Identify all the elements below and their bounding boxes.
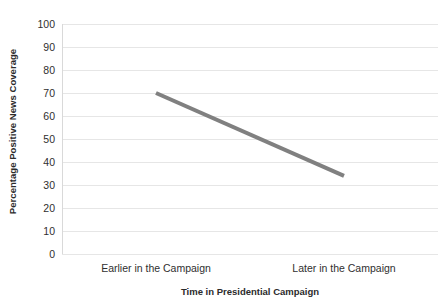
plot-area [62, 16, 438, 262]
x-axis-tick-labels: Earlier in the CampaignLater in the Camp… [62, 262, 438, 280]
y-axis-tick-label: 70 [43, 87, 55, 99]
y-axis-tick-label: 50 [43, 133, 55, 145]
y-axis-title: Percentage Positive News Coverage [0, 0, 26, 262]
y-axis-tick-label: 30 [43, 179, 55, 191]
y-axis-tick-labels: 1009080706050403020100 [26, 16, 59, 262]
y-axis-tick-label: 0 [49, 248, 55, 260]
x-axis-title: Time in Presidential Campaign [62, 286, 438, 297]
y-axis-tick-label: 40 [43, 156, 55, 168]
y-axis-tick-label: 20 [43, 202, 55, 214]
series-line-path [156, 93, 344, 176]
x-axis-tick-label: Earlier in the Campaign [101, 262, 211, 274]
y-axis-tick-label: 90 [43, 41, 55, 53]
line-chart: Percentage Positive News Coverage 100908… [0, 0, 447, 307]
y-axis-tick-label: 100 [37, 18, 55, 30]
y-axis-tick-label: 60 [43, 110, 55, 122]
series-line-svg [62, 16, 438, 262]
y-axis-tick-label: 10 [43, 225, 55, 237]
y-axis-title-text: Percentage Positive News Coverage [8, 48, 19, 213]
x-axis-tick-label: Later in the Campaign [292, 262, 395, 274]
y-axis-tick-label: 80 [43, 64, 55, 76]
